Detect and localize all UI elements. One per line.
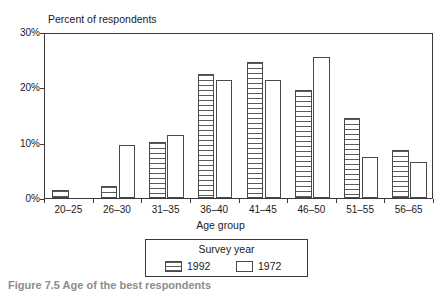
x-axis-category-label: 56–65 (379, 204, 439, 215)
bar-group (288, 34, 337, 198)
bar-1992-31-35 (149, 142, 166, 198)
y-axis-tick-label: 0% (10, 194, 40, 204)
legend-item-1992: 1992 (165, 259, 210, 273)
bar-group (191, 34, 240, 198)
bar-1992-56-65 (392, 150, 409, 198)
bar-group (142, 34, 191, 198)
y-axis-tick-label: 30% (10, 28, 40, 38)
legend-swatch-1992 (165, 261, 182, 272)
bar-group (240, 34, 289, 198)
bar-group (45, 34, 94, 198)
legend: Survey year 1992 1972 (145, 239, 308, 277)
bar-1972-26-30 (119, 145, 136, 198)
y-axis-tick-label: 10% (10, 139, 40, 149)
legend-label-1972: 1972 (258, 260, 281, 272)
legend-title: Survey year (146, 243, 307, 255)
x-axis-tick-mark (336, 199, 337, 203)
x-axis-tick-mark (93, 199, 94, 203)
x-axis-tick-mark (384, 199, 385, 203)
bar-1972-31-35 (167, 135, 184, 198)
bar-group (385, 34, 434, 198)
plot-area (44, 33, 433, 199)
x-axis-tick-mark (239, 199, 240, 203)
bar-1992-26-30 (101, 186, 118, 198)
x-axis-tick-mark (141, 199, 142, 203)
figure-caption: Figure 7.5 Age of the best respondents (8, 279, 211, 292)
y-axis-title: Percent of respondents (48, 13, 157, 25)
bar-group (94, 34, 143, 198)
x-axis-tick-mark (287, 199, 288, 203)
bar-1972-51-55 (362, 157, 379, 198)
bar-1972-36-40 (216, 80, 233, 198)
legend-swatch-1972 (236, 261, 253, 272)
bar-group (337, 34, 386, 198)
legend-item-1972: 1972 (236, 259, 281, 273)
bar-1992-41-45 (247, 62, 264, 198)
bars-layer (45, 34, 432, 198)
x-axis-title: Age group (0, 219, 441, 231)
x-axis-tick-mark (433, 199, 434, 203)
bar-1972-41-45 (265, 80, 282, 198)
y-axis-tick-label: 20% (10, 83, 40, 93)
x-axis-tick-mark (44, 199, 45, 203)
bar-1992-36-40 (198, 74, 215, 199)
x-axis-tick-mark (190, 199, 191, 203)
bar-1972-46-50 (313, 57, 330, 198)
bar-1992-46-50 (295, 90, 312, 198)
bar-1972-56-65 (410, 162, 427, 198)
bar-1992-20-25 (52, 190, 69, 198)
bar-1992-51-55 (344, 118, 361, 198)
legend-label-1992: 1992 (187, 260, 210, 272)
